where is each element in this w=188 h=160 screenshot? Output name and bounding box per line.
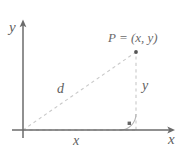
segment-d-label: d [57,82,64,96]
x-axis-label: x [168,132,175,147]
distance-formula-figure: y x d y x P = (x, y) [0,0,188,160]
segment-d-dashed [23,52,136,130]
point-p-marker [134,50,138,54]
segment-y-label: y [142,79,148,93]
y-axis-label: y [9,20,16,35]
point-p-label: P = (x, y) [108,31,158,44]
segment-x-label: x [73,134,79,148]
right-angle-dot [128,122,131,125]
figure-canvas [0,0,188,160]
